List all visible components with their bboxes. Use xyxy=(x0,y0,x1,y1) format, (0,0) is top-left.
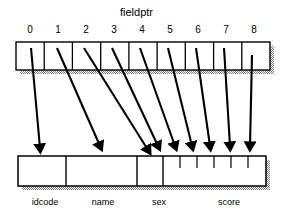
diagram-canvas xyxy=(0,0,295,219)
pointer-array xyxy=(16,42,274,74)
fieldptr-diagram: fieldptr 0 1 2 3 4 5 6 7 8 idcode name s… xyxy=(0,0,295,219)
record-buffer xyxy=(18,156,270,190)
record-buffer-body xyxy=(18,156,266,186)
